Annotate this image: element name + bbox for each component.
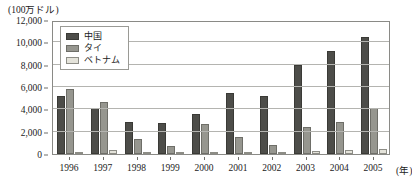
- x-tick-label: 2004: [330, 163, 349, 173]
- bar: [66, 89, 74, 154]
- gridline: [53, 131, 389, 132]
- y-tick-label: 2,000: [21, 128, 42, 138]
- bar: [379, 149, 387, 154]
- y-tick-label: 0: [37, 150, 42, 160]
- y-tick-label: 4,000: [21, 105, 42, 115]
- bar: [134, 139, 142, 154]
- bar: [244, 152, 252, 154]
- x-tick-mark: [69, 157, 70, 160]
- y-tick-mark: [44, 21, 48, 22]
- y-axis: 02,0004,0006,0008,00010,00012,000: [0, 21, 48, 155]
- bar: [269, 145, 277, 154]
- y-tick-label: 12,000: [16, 16, 42, 26]
- x-tick-label: 2001: [228, 163, 247, 173]
- unit-caption: (100万ドル): [8, 2, 59, 16]
- x-tick-mark: [170, 157, 171, 160]
- legend-swatch-icon: [66, 57, 79, 64]
- y-tick-label: 8,000: [21, 61, 42, 71]
- x-axis-unit-label: (年): [396, 163, 412, 177]
- x-tick-mark: [137, 157, 138, 160]
- bar: [158, 123, 166, 154]
- y-tick-label: 10,000: [16, 38, 42, 48]
- y-tick-mark: [44, 43, 48, 44]
- legend-swatch-icon: [66, 45, 79, 52]
- bar: [192, 114, 200, 154]
- bar: [312, 151, 320, 154]
- bar: [345, 150, 353, 154]
- x-tick-label: 1997: [93, 163, 112, 173]
- legend-label: ベトナム: [84, 55, 120, 65]
- legend-label: 中国: [84, 31, 102, 41]
- legend-swatch-icon: [66, 33, 79, 40]
- x-tick-label: 1998: [127, 163, 146, 173]
- legend-item: 中国: [66, 30, 120, 42]
- x-tick-mark: [204, 157, 205, 160]
- bar: [167, 146, 175, 154]
- x-tick-mark: [238, 157, 239, 160]
- x-tick-label: 2002: [262, 163, 281, 173]
- bar: [109, 150, 117, 154]
- bar: [201, 124, 209, 154]
- x-tick-label: 2003: [296, 163, 315, 173]
- gridline: [53, 86, 389, 87]
- bar: [361, 37, 369, 154]
- x-tick-mark: [306, 157, 307, 160]
- x-axis: (年) 199619971998199920002001200220032004…: [52, 157, 390, 179]
- y-tick-mark: [44, 88, 48, 89]
- x-tick-mark: [103, 157, 104, 160]
- y-tick-mark: [44, 132, 48, 133]
- bar: [260, 96, 268, 154]
- x-tick-mark: [272, 157, 273, 160]
- bar: [235, 137, 243, 154]
- bar: [226, 93, 234, 154]
- legend-item: ベトナム: [66, 54, 120, 66]
- bar: [75, 152, 83, 154]
- legend: 中国タイベトナム: [60, 26, 129, 70]
- x-tick-mark: [373, 157, 374, 160]
- x-tick-label: 1999: [161, 163, 180, 173]
- legend-label: タイ: [84, 43, 102, 53]
- x-tick-label: 1996: [59, 163, 78, 173]
- bar: [278, 152, 286, 154]
- bar: [210, 152, 218, 154]
- legend-item: タイ: [66, 42, 120, 54]
- bar: [125, 122, 133, 154]
- bar: [143, 152, 151, 154]
- y-tick-label: 6,000: [21, 83, 42, 93]
- y-tick-mark: [44, 155, 48, 156]
- gridline: [53, 108, 389, 109]
- x-tick-label: 2000: [195, 163, 214, 173]
- bar: [100, 102, 108, 154]
- bar: [336, 122, 344, 154]
- y-tick-mark: [44, 110, 48, 111]
- y-tick-mark: [44, 65, 48, 66]
- bar: [57, 96, 65, 154]
- bar: [176, 152, 184, 154]
- bar: [327, 51, 335, 154]
- x-tick-mark: [339, 157, 340, 160]
- x-tick-label: 2005: [364, 163, 383, 173]
